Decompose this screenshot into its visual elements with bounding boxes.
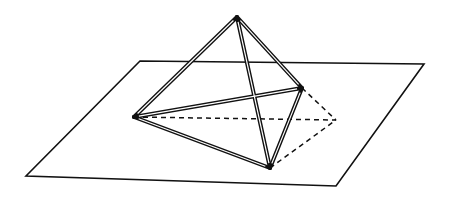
plane — [26, 61, 424, 186]
solid-edges — [134, 17, 302, 168]
hidden-edge-left-hidden — [134, 117, 336, 120]
rod-edge-left-bottom — [139, 119, 266, 166]
rod-edge-left-right — [139, 89, 297, 116]
rod-edge-right-bottom — [272, 93, 300, 164]
hidden-edge-right-hidden — [302, 88, 336, 120]
rod-edge-apex-left — [138, 20, 234, 113]
pyramid-on-plane-diagram — [0, 0, 449, 198]
